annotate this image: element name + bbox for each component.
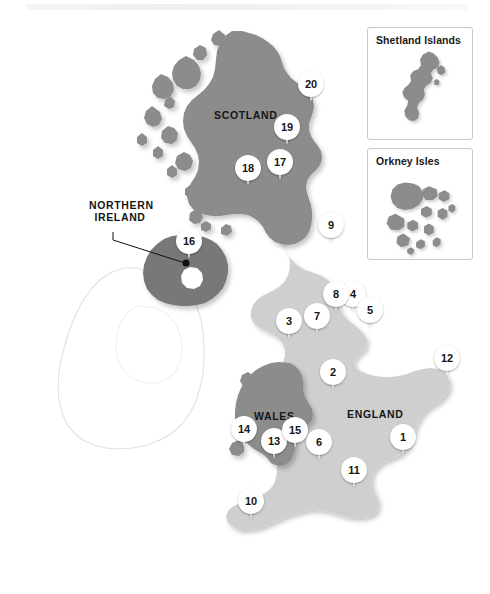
map-marker-number: 10 [238, 488, 264, 514]
map-marker-2[interactable]: 2 [320, 359, 346, 392]
map-marker-10[interactable]: 10 [238, 488, 264, 521]
region-label-england: ENGLAND [347, 409, 403, 421]
map-marker-number: 11 [341, 457, 367, 483]
map-marker-number: 17 [267, 149, 293, 175]
map-marker-number: 9 [318, 212, 344, 238]
map-marker-3[interactable]: 3 [276, 308, 302, 341]
map-marker-number: 1 [390, 424, 416, 450]
map-marker-17[interactable]: 17 [267, 149, 293, 182]
map-marker-number: 12 [434, 345, 460, 371]
inset-title-orkney: Orkney Isles [376, 155, 440, 167]
map-marker-number: 14 [231, 416, 257, 442]
map-marker-number: 3 [276, 308, 302, 334]
map-marker-number: 15 [282, 417, 308, 443]
inset-title-shetland: Shetland Islands [376, 34, 461, 46]
map-marker-20[interactable]: 20 [298, 71, 324, 104]
map-canvas: SCOTLAND ENGLAND WALES NORTHERNIRELAND S… [0, 0, 490, 594]
map-marker-number: 20 [298, 71, 324, 97]
map-marker-6[interactable]: 6 [306, 429, 332, 462]
inset-panel-orkney: Orkney Isles [367, 148, 473, 260]
map-marker-8[interactable]: 8 [323, 281, 349, 314]
map-marker-number: 5 [357, 297, 383, 323]
map-marker-number: 2 [320, 359, 346, 385]
map-marker-1[interactable]: 1 [390, 424, 416, 457]
map-marker-5[interactable]: 5 [357, 297, 383, 330]
map-marker-number: 19 [274, 114, 300, 140]
map-marker-11[interactable]: 11 [341, 457, 367, 490]
map-marker-16[interactable]: 16 [176, 228, 202, 261]
map-marker-9[interactable]: 9 [318, 212, 344, 245]
map-marker-number: 18 [235, 155, 261, 181]
map-marker-15[interactable]: 15 [282, 417, 308, 450]
map-marker-18[interactable]: 18 [235, 155, 261, 188]
region-label-northern-ireland: NORTHERNIRELAND [89, 200, 151, 223]
inset-panel-shetland: Shetland Islands [367, 27, 473, 140]
map-marker-14[interactable]: 14 [231, 416, 257, 449]
map-marker-number: 6 [306, 429, 332, 455]
map-marker-number: 16 [176, 228, 202, 254]
region-label-scotland: SCOTLAND [214, 110, 278, 122]
map-marker-number: 8 [323, 281, 349, 307]
map-marker-12[interactable]: 12 [434, 345, 460, 378]
map-marker-19[interactable]: 19 [274, 114, 300, 147]
